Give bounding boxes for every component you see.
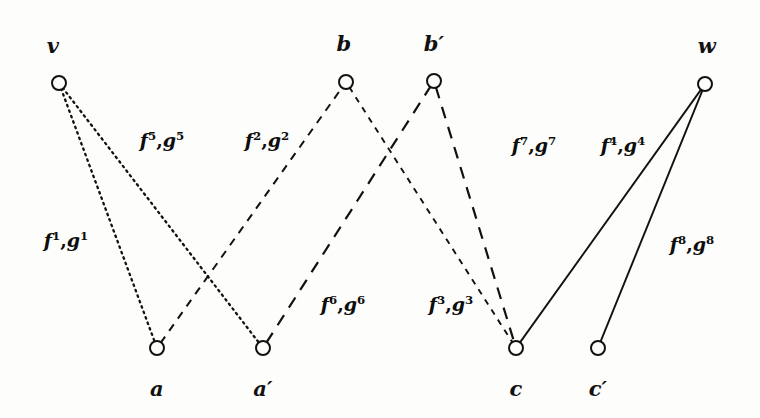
graph-edge-e8 bbox=[600, 90, 702, 343]
node-label-v: v bbox=[47, 33, 59, 58]
edge-label-e4: f4,g4 bbox=[601, 134, 645, 156]
edge-label-e5: f5,g5 bbox=[140, 129, 184, 151]
node-label-ap: a′ bbox=[253, 376, 273, 401]
diagram-canvas: vbb′waa′cc′f1,g1f5,g5f2,g2f6,g6f3,g3f7,g… bbox=[0, 0, 760, 418]
graph-edge-e5 bbox=[63, 88, 260, 343]
edge-label-e8: f8,g8 bbox=[670, 233, 714, 255]
graph-edge-e1 bbox=[61, 89, 155, 343]
node-label-bp: b′ bbox=[424, 31, 445, 56]
graph-edge-e2 bbox=[160, 87, 342, 343]
graph-svg bbox=[0, 0, 760, 418]
graph-node-b[interactable] bbox=[339, 75, 353, 89]
graph-node-w[interactable] bbox=[698, 77, 712, 91]
node-label-c: c bbox=[510, 376, 523, 401]
graph-node-ap[interactable] bbox=[256, 341, 270, 355]
edge-label-e7: f7,g7 bbox=[512, 134, 556, 156]
edge-label-e3: f3,g3 bbox=[429, 293, 473, 315]
node-label-cp: c′ bbox=[589, 376, 608, 401]
graph-node-c[interactable] bbox=[509, 341, 523, 355]
graph-node-cp[interactable] bbox=[591, 341, 605, 355]
node-label-w: w bbox=[698, 33, 716, 58]
edge-label-e6: f6,g6 bbox=[321, 293, 365, 315]
graph-node-bp[interactable] bbox=[427, 74, 441, 88]
edge-label-e2: f2,g2 bbox=[245, 129, 289, 151]
edge-label-e1: f1,g1 bbox=[44, 229, 88, 251]
graph-node-v[interactable] bbox=[52, 76, 66, 90]
node-label-a: a bbox=[150, 376, 164, 401]
graph-node-a[interactable] bbox=[150, 341, 164, 355]
node-label-b: b bbox=[337, 31, 352, 56]
graph-edge-e4 bbox=[519, 89, 701, 343]
